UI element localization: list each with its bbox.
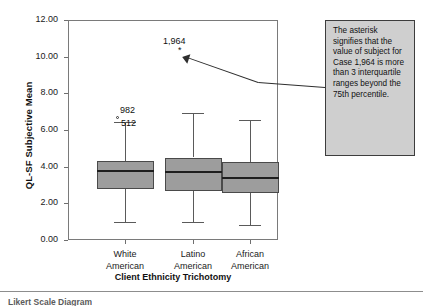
y-tick-label: 0.00 (12, 234, 58, 244)
outlier-label-1964: 1,964 (163, 36, 186, 46)
y-tick-label: 8.00 (12, 87, 58, 97)
y-tick-label: 6.00 (12, 124, 58, 134)
x-tick-mark (125, 240, 126, 244)
whisker-cap-lower (182, 222, 204, 223)
box-iqr (165, 158, 222, 191)
plot-frame (68, 20, 278, 240)
annotation-callout: The asterisk signifies that the value of… (325, 20, 415, 156)
whisker-lower (193, 191, 194, 222)
whisker-lower (125, 189, 126, 222)
x-category-label-line: American (88, 261, 162, 273)
x-category-label: WhiteAmerican (88, 249, 162, 272)
median-line (222, 177, 279, 179)
x-category-label: AfricanAmerican (213, 249, 287, 272)
x-category-label-line: American (213, 261, 287, 273)
y-axis-title: QL-SF Subjective Mean (23, 56, 34, 216)
outlier-label-982: 982 (120, 105, 135, 115)
whisker-upper (250, 120, 251, 162)
whisker-cap-lower (114, 222, 136, 223)
x-category-label-line: African (213, 249, 287, 261)
x-category-label-line: White (88, 249, 162, 261)
whisker-upper (193, 113, 194, 158)
y-tick-mark (64, 240, 68, 241)
footer-divider (0, 291, 423, 292)
median-line (165, 171, 222, 173)
whisker-cap-upper (239, 120, 261, 121)
whisker-cap-lower (239, 225, 261, 226)
outlier-label-512: 512 (121, 118, 136, 128)
whisker-cap-upper (182, 113, 204, 114)
figure-caption: Likert Scale Diagram (8, 297, 92, 306)
box-iqr (97, 161, 154, 189)
whisker-lower (250, 193, 251, 225)
x-axis-title: Client Ethnicity Trichotomy (68, 272, 278, 282)
outlier-marker-asterisk: * (178, 48, 182, 53)
x-tick-mark (193, 240, 194, 244)
median-line (97, 170, 154, 172)
boxplot-figure: QL-SF Subjective Mean 0.002.004.006.008.… (0, 0, 423, 307)
y-tick-label: 2.00 (12, 197, 58, 207)
x-tick-mark (250, 240, 251, 244)
y-tick-label: 10.00 (12, 51, 58, 61)
y-tick-label: 12.00 (12, 14, 58, 24)
y-tick-label: 4.00 (12, 161, 58, 171)
